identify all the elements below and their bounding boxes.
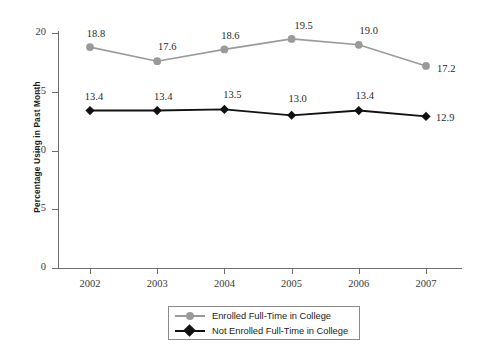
data-point-label: 18.8: [87, 28, 105, 39]
data-point-label: 17.6: [158, 41, 176, 52]
series-layer: [0, 0, 488, 347]
legend-swatch-circle-icon: [175, 309, 205, 323]
series-line-enrolled: [90, 39, 426, 66]
data-point-label: 19.0: [360, 24, 378, 35]
series-line-not-enrolled: [90, 109, 426, 116]
data-point-label: 13.4: [85, 90, 103, 101]
legend-swatch-diamond-icon: [175, 324, 205, 338]
data-point-marker: [86, 43, 94, 51]
legend: Enrolled Full-Time in College Not Enroll…: [168, 306, 360, 340]
data-point-label: 19.5: [294, 19, 312, 30]
data-point-label: 13.5: [223, 89, 241, 100]
data-point-marker: [153, 106, 162, 115]
data-point-label: 13.4: [154, 90, 172, 101]
legend-item-enrolled: Enrolled Full-Time in College: [169, 308, 359, 324]
legend-item-not-enrolled: Not Enrolled Full-Time in College: [169, 323, 359, 339]
data-point-marker: [422, 62, 430, 70]
data-point-marker: [421, 112, 430, 121]
data-point-marker: [354, 106, 363, 115]
data-point-marker: [153, 57, 161, 65]
data-point-marker: [287, 111, 296, 120]
data-point-label: 18.6: [221, 30, 239, 41]
data-point-marker: [221, 46, 229, 54]
legend-label-enrolled: Enrolled Full-Time in College: [212, 311, 331, 321]
data-point-marker: [288, 35, 296, 43]
data-point-label: 12.9: [436, 112, 454, 123]
data-point-marker: [355, 41, 363, 49]
legend-label-not-enrolled: Not Enrolled Full-Time in College: [212, 326, 348, 336]
line-chart: Percentage Using in Past Month 20151050 …: [0, 0, 488, 347]
data-point-marker: [85, 106, 94, 115]
data-point-label: 17.2: [437, 62, 455, 73]
data-point-marker: [220, 105, 229, 114]
data-point-label: 13.4: [356, 89, 374, 100]
data-point-label: 13.0: [288, 93, 306, 104]
